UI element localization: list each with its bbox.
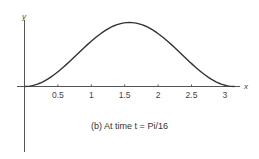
y-axis-label: y bbox=[21, 12, 27, 21]
x-tick-label: 2.5 bbox=[186, 90, 198, 100]
x-tick-label: 0.5 bbox=[52, 90, 64, 100]
x-tick-label: 1.5 bbox=[119, 90, 131, 100]
x-tick-labels: 0.511.522.53 bbox=[52, 90, 228, 100]
chart-caption: (b) At time t = Pi/16 bbox=[0, 121, 259, 131]
x-tick-label: 2 bbox=[156, 90, 161, 100]
chart: 0.511.522.53 x y bbox=[0, 0, 259, 159]
data-curve bbox=[25, 23, 235, 87]
x-tick-label: 1 bbox=[89, 90, 94, 100]
x-axis-label: x bbox=[243, 82, 249, 91]
x-tick-label: 3 bbox=[223, 90, 228, 100]
